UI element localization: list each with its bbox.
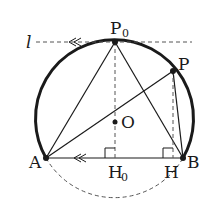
label-O: O [121, 112, 135, 132]
geometry-diagram: l P 0 P O A B H 0 H [0, 0, 211, 218]
segment-AP0 [46, 42, 115, 158]
point-P [170, 68, 176, 74]
label-H: H [164, 162, 179, 182]
label-A: A [28, 152, 42, 172]
label-l: l [26, 32, 31, 52]
label-B: B [187, 152, 200, 172]
point-O [113, 120, 118, 125]
segment-PB [173, 71, 183, 158]
point-P0 [112, 39, 118, 45]
label-P0: P [110, 18, 121, 38]
label-P0-sub: 0 [122, 27, 129, 40]
right-angle-mark-H [163, 148, 173, 158]
point-A [43, 155, 49, 161]
diagram-canvas: l P 0 P O A B H 0 H [0, 0, 211, 218]
label-H0-sub: 0 [121, 171, 128, 184]
segment-AP [46, 71, 173, 158]
point-B [180, 155, 186, 161]
right-angle-mark-H0 [105, 148, 115, 158]
label-P: P [178, 54, 189, 74]
